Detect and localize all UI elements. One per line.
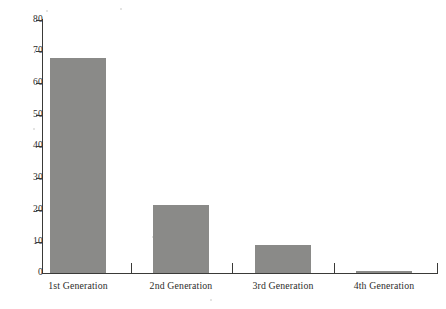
x-tick-mark xyxy=(437,263,438,274)
y-tick-40: 40 xyxy=(0,146,43,147)
y-tick-mark xyxy=(36,20,43,21)
x-tick-mark xyxy=(131,263,132,274)
x-axis-label-3rd-generation: 3rd Generation xyxy=(241,281,325,292)
y-tick-mark xyxy=(36,83,43,84)
y-tick-mark xyxy=(36,210,43,211)
scan-speck xyxy=(33,128,35,130)
y-tick-60: 60 xyxy=(0,83,43,84)
y-tick-20: 20 xyxy=(0,210,43,211)
y-tick-label-0: 0 xyxy=(11,268,43,278)
x-axis-label-4th-generation: 4th Generation xyxy=(342,281,426,292)
scan-speck xyxy=(120,8,122,10)
bar-3rd-generation xyxy=(255,245,311,273)
y-tick-70: 70 xyxy=(0,51,43,52)
x-axis-label-1st-generation: 1st Generation xyxy=(36,281,120,292)
y-tick-mark xyxy=(36,115,43,116)
y-tick-mark xyxy=(36,242,43,243)
x-axis-label-2nd-generation: 2nd Generation xyxy=(139,281,223,292)
bar-1st-generation xyxy=(50,58,106,273)
y-tick-80: 80 xyxy=(0,20,43,21)
bar-4th-generation xyxy=(356,271,412,273)
bar-2nd-generation xyxy=(153,205,209,273)
y-tick-30: 30 xyxy=(0,178,43,179)
scan-speck xyxy=(210,299,212,301)
scan-speck xyxy=(46,10,48,12)
y-tick-10: 10 xyxy=(0,242,43,243)
y-tick-mark xyxy=(36,51,43,52)
x-axis-line xyxy=(42,273,438,274)
y-tick-50: 50 xyxy=(0,115,43,116)
y-tick-0: 0 xyxy=(0,273,43,274)
y-tick-mark xyxy=(36,178,43,179)
bar-chart-figure: 80 70 60 50 40 30 20 10 0 1 xyxy=(0,0,446,309)
x-tick-mark xyxy=(334,263,335,274)
y-tick-mark xyxy=(36,146,43,147)
x-tick-mark xyxy=(232,263,233,274)
